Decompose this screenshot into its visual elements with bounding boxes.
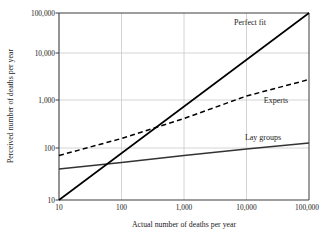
series-label-experts: Experts xyxy=(264,96,288,105)
log-log-chart: 100,000 10,000 1,000 100 10 10 100 1,000… xyxy=(0,0,335,238)
series-label-perfect-fit: Perfect fit xyxy=(234,18,267,27)
y-tick-label-1000: 1,000 xyxy=(38,96,55,105)
y-tick-label-10000: 10,000 xyxy=(35,49,56,58)
y-axis-title: Perceived number of deaths per year xyxy=(6,49,15,163)
y-tick-label-100000: 100,000 xyxy=(31,9,55,18)
x-axis-title: Actual number of deaths per year xyxy=(132,220,237,229)
x-tick-label-1000: 1,000 xyxy=(176,203,193,212)
x-tick-label-10000: 10,000 xyxy=(236,203,257,212)
y-tick-label-10: 10 xyxy=(48,196,56,205)
chart-figure: 100,000 10,000 1,000 100 10 10 100 1,000… xyxy=(0,0,335,238)
y-tick-label-100: 100 xyxy=(44,144,55,153)
x-tick-label-100: 100 xyxy=(116,203,127,212)
series-label-lay-groups: Lay groups xyxy=(245,133,281,142)
x-tick-label-10: 10 xyxy=(55,203,63,212)
x-tick-label-100000: 100,000 xyxy=(295,203,319,212)
